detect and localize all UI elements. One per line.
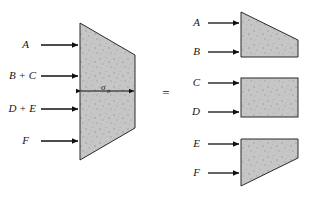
middle-rectangle-shape <box>241 78 298 117</box>
load-label-b-upper: B <box>193 45 200 57</box>
load-label-a: A <box>21 38 29 50</box>
left-load-arrows <box>41 45 78 141</box>
load-label-bc: B + C <box>9 69 37 81</box>
lower-trapezoid-shape <box>241 139 298 186</box>
load-label-f-lower: F <box>192 166 200 178</box>
equals-sign: = <box>162 85 169 100</box>
lower-trapezoid-group: E F <box>192 137 298 186</box>
load-label-de: D + E <box>7 102 36 114</box>
upper-trapezoid-shape <box>241 12 298 57</box>
upper-trapezoid-group: A B <box>192 12 298 57</box>
load-label-a-upper: A <box>192 16 200 28</box>
load-label-e-lower: E <box>192 137 200 149</box>
stress-symbol-label: σ <box>101 82 106 92</box>
superposition-figure: A B + C D + E F σ o = A B C D <box>0 0 320 197</box>
middle-rectangle-group: C D <box>191 76 298 117</box>
load-label-d-middle: D <box>191 105 200 117</box>
load-label-c-middle: C <box>193 76 201 88</box>
load-label-f: F <box>21 134 29 146</box>
stress-subscript-label: o <box>107 88 110 94</box>
